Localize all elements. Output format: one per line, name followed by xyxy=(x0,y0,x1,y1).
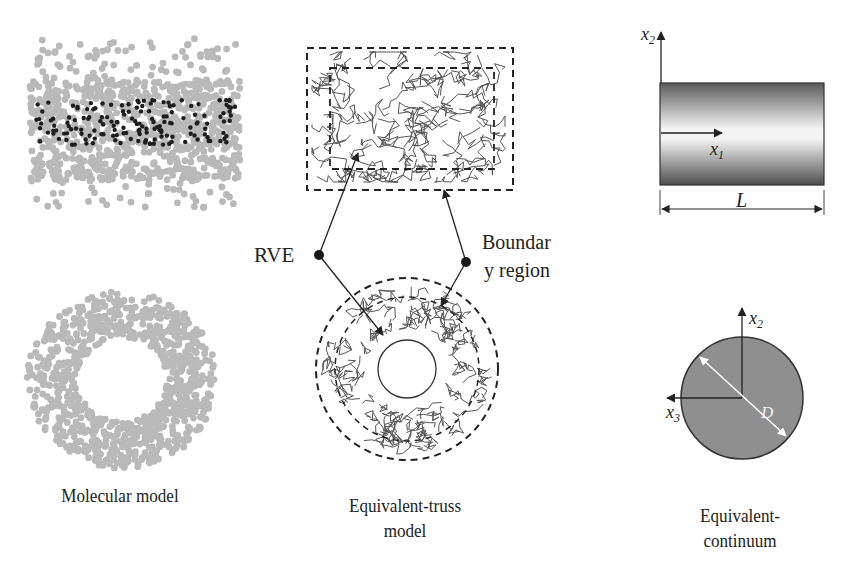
boundary-label-line2: y region xyxy=(484,259,550,282)
diameter-label: D xyxy=(760,403,774,422)
rve-pointer-dot xyxy=(314,250,324,260)
truss-cross-section xyxy=(316,278,498,460)
cylinder-body xyxy=(660,83,824,185)
continuum-side-view: x2 x1 L xyxy=(640,24,824,215)
molecular-cross-section xyxy=(24,289,218,471)
rve-label: RVE xyxy=(254,243,294,267)
truss-side-view xyxy=(307,48,513,190)
caption-truss-model: Equivalent-truss model xyxy=(311,493,500,543)
inner-hole xyxy=(378,340,436,398)
length-label: L xyxy=(735,189,747,211)
boundary-pointer-dot xyxy=(461,257,471,267)
boundary-label-line1: Boundar xyxy=(482,231,551,253)
caption-continuum-line1: Equivalent- xyxy=(659,503,821,528)
caption-continuum-line2: continuum xyxy=(659,528,821,553)
continuum-cross-section: x2 x3 D xyxy=(665,308,803,459)
annotation-pointers: RVE Boundar y region xyxy=(254,153,551,335)
x2-axis-label: x2 xyxy=(640,24,655,47)
x2-axis-label-cross: x2 xyxy=(748,308,763,331)
caption-molecular-model: Molecular model xyxy=(30,483,210,508)
caption-continuum-model: Equivalent- continuum xyxy=(659,503,821,553)
molecular-side-view xyxy=(27,35,244,211)
caption-truss-line2: model xyxy=(311,518,500,543)
x3-axis-label: x3 xyxy=(665,402,680,425)
caption-truss-line1: Equivalent-truss xyxy=(311,493,500,518)
